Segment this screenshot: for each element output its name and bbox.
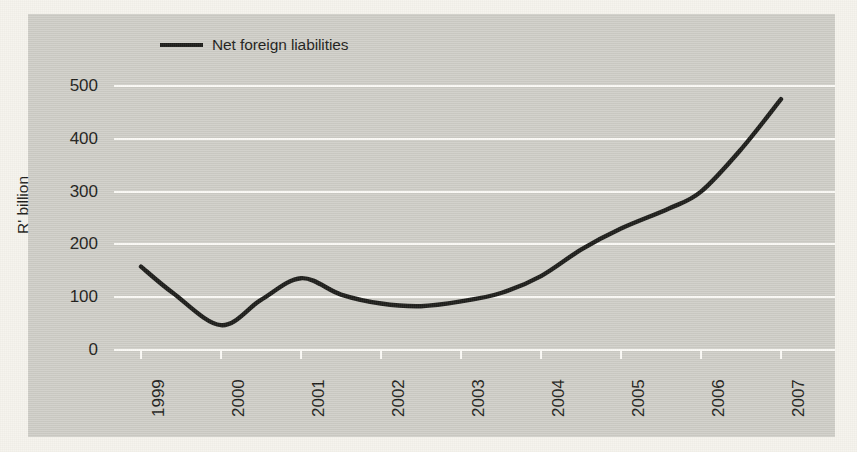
x-tick-2006: 2006 <box>709 379 729 417</box>
x-axis-tick-labels: 199920002001200220032004200520062007 <box>0 0 857 452</box>
x-tick-2000: 2000 <box>229 379 249 417</box>
x-tick-1999: 1999 <box>149 379 169 417</box>
chart-figure: Net foreign liabilities R' billion 01002… <box>0 0 857 452</box>
x-tick-2003: 2003 <box>469 379 489 417</box>
x-tick-2002: 2002 <box>389 379 409 417</box>
x-tick-2005: 2005 <box>629 379 649 417</box>
x-tick-2004: 2004 <box>549 379 569 417</box>
x-tick-2001: 2001 <box>309 379 329 417</box>
x-tick-2007: 2007 <box>789 379 809 417</box>
